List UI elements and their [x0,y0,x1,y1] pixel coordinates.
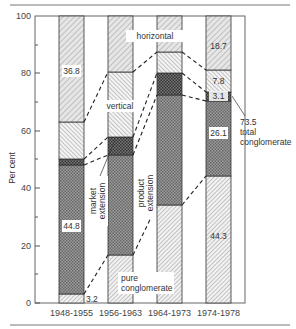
value-b1-pure: 3.2 [86,294,98,304]
label-total: total [240,127,256,137]
label-total-conglomerate: conglomerate [240,137,292,147]
y-tick-60: 60 [21,126,31,136]
value-b4-market: 3.1 [213,91,225,101]
value-b4-horizontal: 18.7 [210,41,227,51]
bar-1956-1963 [108,16,133,303]
label-market-extension-2: extension [97,183,107,220]
bar-1974-1978 [206,16,231,303]
value-b1-horizontal: 36.8 [63,66,80,76]
bar-1964-1973 [157,16,182,303]
value-b1-market: 44.8 [63,221,80,231]
x-tick-1974-1978: 1974-1978 [197,308,240,318]
value-b4-vertical: 7.8 [213,76,225,86]
x-tick-1948-1955: 1948-1955 [50,308,93,318]
x-tick-1964-1973: 1964-1973 [148,308,191,318]
label-pure: pure [121,273,138,283]
value-b4-product: 26.1 [210,128,227,138]
bar-1948-1955 [59,16,84,303]
x-tick-1956-1963: 1956-1963 [99,308,142,318]
label-total-value: 73.5 [240,117,257,127]
y-tick-40: 40 [21,183,31,193]
label-vertical: vertical [107,101,134,111]
label-conglomerate: conglomerate [121,283,173,293]
y-tick-0: 0 [26,298,31,308]
y-tick-80: 80 [21,68,31,78]
stacked-bar-chart: 0 20 40 60 80 100 Per cent [0,0,296,329]
value-b4-pure: 44.3 [210,231,227,241]
y-tick-100: 100 [16,11,31,21]
label-product-extension-2: extension [145,175,155,212]
label-horizontal: horizontal [137,31,174,41]
y-tick-20: 20 [21,241,31,251]
y-axis-label: Per cent [7,152,17,184]
